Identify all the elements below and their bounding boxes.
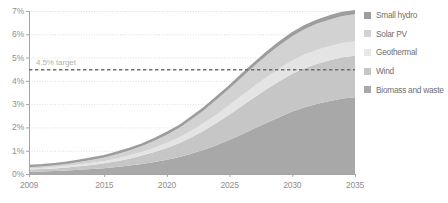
chart-legend: Small hydroSolar PVGeothermalWindBiomass… (364, 6, 448, 99)
x-axis-tick-label: 2020 (150, 180, 184, 190)
legend-item-label: Biomass and waste (376, 85, 444, 95)
legend-item-label: Geothermal (376, 47, 417, 57)
legend-swatch-icon (364, 12, 371, 19)
legend-swatch-icon (364, 86, 371, 93)
legend-item-label: Solar PV (376, 29, 407, 39)
legend-item[interactable]: Wind (364, 62, 448, 81)
y-axis-tick-label: 1% (0, 146, 24, 156)
y-axis-tick-label: 0% (0, 169, 24, 179)
x-axis-tick-label: 2015 (87, 180, 121, 190)
x-axis-tick-label: 2030 (275, 180, 309, 190)
plot-area (0, 0, 360, 203)
legend-swatch-icon (364, 68, 371, 75)
y-axis-tick-label: 7% (0, 6, 24, 16)
y-axis-tick-label: 2% (0, 122, 24, 132)
legend-item[interactable]: Solar PV (364, 25, 448, 44)
legend-item-label: Small hydro (376, 10, 417, 20)
x-axis-tick-label: 2025 (213, 180, 247, 190)
y-axis-tick-label: 3% (0, 99, 24, 109)
legend-swatch-icon (364, 49, 371, 56)
legend-swatch-icon (364, 30, 371, 37)
legend-item[interactable]: Biomass and waste (364, 80, 448, 99)
x-axis-tick-label: 2035 (338, 180, 372, 190)
x-axis-tick-label: 2009 (12, 180, 46, 190)
y-axis-tick-label: 6% (0, 29, 24, 39)
legend-item[interactable]: Geothermal (364, 43, 448, 62)
target-annotation-label: 4.5% target (36, 58, 76, 67)
y-axis-tick-label: 4% (0, 76, 24, 86)
stacked-area-chart: 0%1%2%3%4%5%6%7% 20092015202020252030203… (0, 0, 448, 203)
legend-item-label: Wind (376, 66, 394, 76)
chart-canvas (0, 0, 360, 203)
y-axis-tick-label: 5% (0, 53, 24, 63)
legend-item[interactable]: Small hydro (364, 6, 448, 25)
